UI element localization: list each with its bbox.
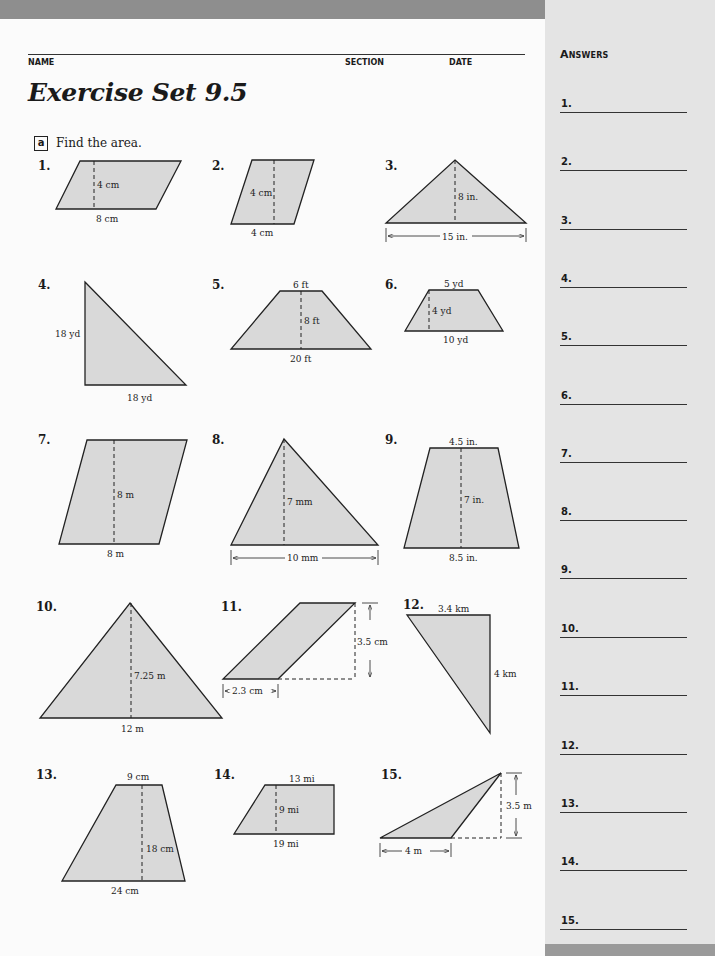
label: 5 yd: [444, 279, 464, 289]
label: 4 cm: [97, 180, 120, 190]
answer-field-11[interactable]: 11.: [560, 681, 687, 696]
label: 18 yd: [55, 329, 80, 339]
label: 13 mi: [289, 774, 315, 784]
label: 19 mi: [273, 839, 299, 849]
label: 9 cm: [127, 772, 150, 782]
label: 4.5 in.: [449, 437, 478, 447]
sidebar-bottom-band: [545, 944, 715, 956]
label: 8 cm: [96, 214, 119, 224]
label: 20 ft: [290, 354, 312, 364]
label: 3.5 cm: [357, 637, 388, 647]
answer-field-5[interactable]: 5.: [560, 331, 687, 346]
label: 10 yd: [443, 335, 468, 345]
label: 8.5 in.: [449, 553, 478, 563]
label: 6 ft: [293, 280, 309, 290]
label: 18 cm: [146, 844, 174, 854]
answer-field-13[interactable]: 13.: [560, 798, 687, 813]
label: 4 yd: [432, 306, 452, 316]
figure-4-right-triangle: [85, 282, 186, 385]
label: 12 m: [121, 724, 144, 734]
answer-field-4[interactable]: 4.: [560, 273, 687, 288]
answers-title: Answers: [560, 48, 609, 61]
answer-field-6[interactable]: 6.: [560, 390, 687, 405]
label: 8 in.: [458, 192, 478, 202]
label: 7 in.: [464, 495, 484, 505]
label: 7.25 m: [134, 671, 166, 681]
answer-field-10[interactable]: 10.: [560, 623, 687, 638]
label: 4 km: [494, 669, 517, 679]
label: 8 m: [117, 490, 135, 500]
figures: 4 cm 8 cm 4 cm 4 cm 8 in. 15 in. 18 yd 1…: [0, 0, 545, 956]
label: 3.5 m: [506, 801, 532, 811]
answer-field-3[interactable]: 3.: [560, 215, 687, 230]
answer-field-14[interactable]: 14.: [560, 856, 687, 871]
label: 8 ft: [304, 316, 320, 326]
figure-15-obtuse-triangle: [380, 773, 501, 838]
figure-13-trapezoid: [62, 785, 185, 881]
label: 3.4 km: [438, 604, 470, 614]
figure-12-right-triangle: [407, 615, 490, 733]
answer-field-9[interactable]: 9.: [560, 564, 687, 579]
label: 24 cm: [111, 886, 139, 896]
figure-3-triangle: [386, 160, 526, 223]
answer-field-2[interactable]: 2.: [560, 156, 687, 171]
label: 2.3 cm: [232, 686, 263, 696]
label: 15 in.: [442, 232, 468, 242]
label: 8 m: [107, 549, 125, 559]
answer-field-7[interactable]: 7.: [560, 448, 687, 463]
label: 7 mm: [287, 497, 313, 507]
answer-field-8[interactable]: 8.: [560, 506, 687, 521]
figure-6-trapezoid: [405, 290, 503, 331]
label: 9 mi: [279, 805, 299, 815]
label: 4 cm: [250, 188, 273, 198]
label: 4 cm: [251, 228, 274, 238]
answer-field-12[interactable]: 12.: [560, 740, 687, 755]
label: 10 mm: [287, 553, 319, 563]
label: 4 m: [405, 846, 423, 856]
label: 18 yd: [127, 393, 152, 403]
answer-field-1[interactable]: 1.: [560, 98, 687, 113]
figure-2-parallelogram: [231, 160, 314, 224]
figure-8-triangle: [231, 439, 378, 545]
figure-11-parallelogram: [223, 603, 355, 679]
answer-field-15[interactable]: 15.: [560, 915, 687, 930]
